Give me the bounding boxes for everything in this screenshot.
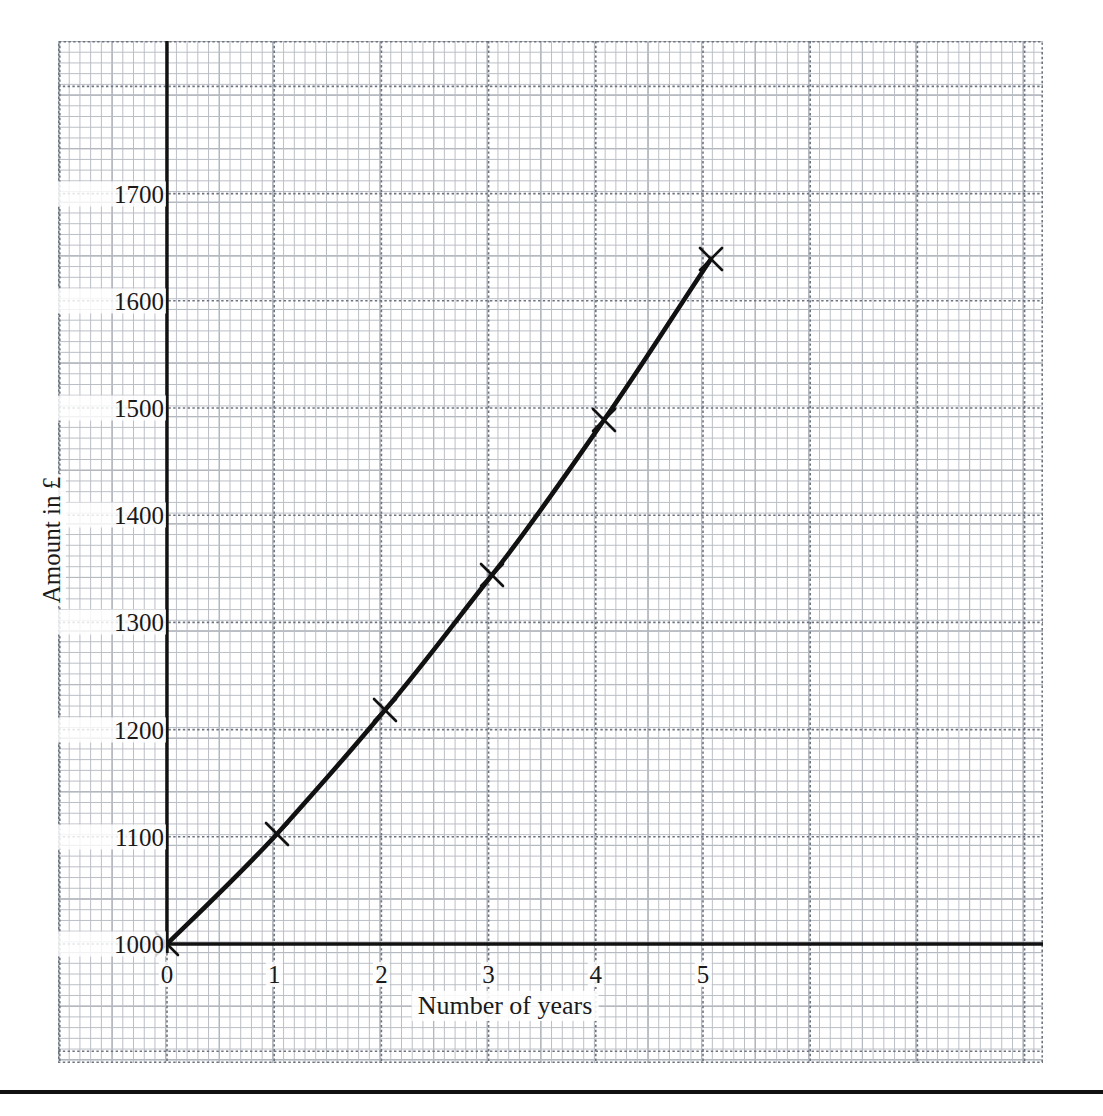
y-tick-label-1400: 1400	[50, 503, 166, 528]
y-tick-label-1000: 1000	[50, 932, 166, 957]
figure-container: 1000 1100 1200 1300 1400 1500 1600 1700 …	[0, 0, 1103, 1116]
y-tick-label-1500: 1500	[50, 396, 166, 421]
x-tick-label-1: 1	[266, 962, 283, 987]
y-tick-label-1300: 1300	[50, 610, 166, 635]
y-tick-label-1100: 1100	[50, 824, 166, 849]
y-axis-title: Amount in £	[38, 474, 66, 606]
x-axis-title: Number of years	[412, 991, 599, 1021]
x-tick-label-4: 4	[588, 962, 605, 987]
x-tick-label-2: 2	[373, 962, 390, 987]
x-tick-label-5: 5	[695, 962, 712, 987]
y-tick-label-1200: 1200	[50, 717, 166, 742]
y-tick-label-1600: 1600	[50, 288, 166, 313]
x-tick-label-0: 0	[159, 962, 176, 987]
y-tick-label-1700: 1700	[50, 181, 166, 206]
page-bottom-rule	[0, 1090, 1103, 1094]
x-tick-label-3: 3	[480, 962, 497, 987]
graph-paper-grid	[58, 41, 1043, 1063]
